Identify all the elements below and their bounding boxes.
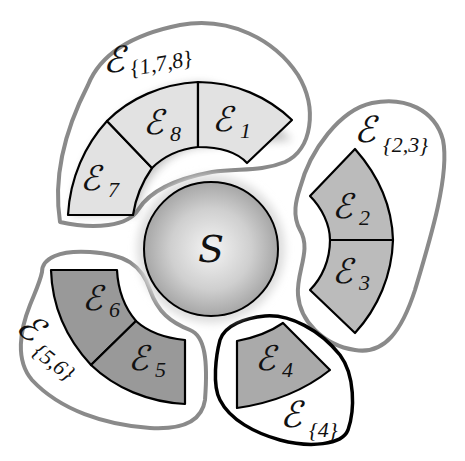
svg-text:3: 3 bbox=[358, 270, 370, 295]
svg-text:1: 1 bbox=[240, 118, 251, 143]
svg-text:ℰ: ℰ bbox=[332, 251, 356, 291]
center-label: S bbox=[198, 227, 224, 271]
svg-text:{2,3}: {2,3} bbox=[383, 132, 428, 157]
svg-text:ℰ: ℰ bbox=[82, 278, 106, 318]
svg-text:ℰ: ℰ bbox=[280, 394, 305, 435]
svg-text:8: 8 bbox=[170, 121, 181, 146]
svg-text:ℰ: ℰ bbox=[143, 102, 167, 142]
svg-text:ℰ: ℰ bbox=[128, 338, 152, 378]
svg-text:ℰ: ℰ bbox=[103, 39, 128, 80]
svg-text:4: 4 bbox=[282, 357, 293, 382]
svg-text:ℰ: ℰ bbox=[255, 338, 279, 378]
svg-text:5: 5 bbox=[155, 357, 166, 382]
partition-diagram: S ℰ 7 ℰ 8 ℰ 1 ℰ 2 ℰ 3 ℰ 4 ℰ 5 ℰ 6 ℰ {1,7… bbox=[0, 0, 465, 461]
svg-text:ℰ: ℰ bbox=[332, 186, 356, 226]
svg-text:7: 7 bbox=[108, 177, 120, 202]
svg-text:ℰ: ℰ bbox=[354, 109, 379, 150]
svg-text:2: 2 bbox=[359, 205, 370, 230]
svg-text:ℰ: ℰ bbox=[212, 99, 236, 139]
svg-text:ℰ: ℰ bbox=[80, 158, 104, 198]
svg-text:{4}: {4} bbox=[309, 417, 338, 442]
svg-text:6: 6 bbox=[109, 297, 120, 322]
